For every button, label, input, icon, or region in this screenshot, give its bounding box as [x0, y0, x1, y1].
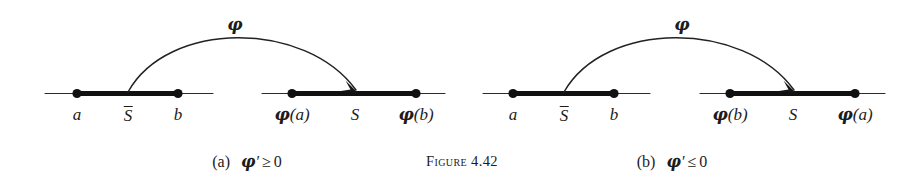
codomain-endpoint-right-dot	[411, 89, 420, 98]
domain-endpoint-b-dot	[609, 89, 618, 98]
caption-b-condition: φ′≤0	[666, 153, 707, 170]
caption-row: (a)φ′≥0 Figure 4.42 (b)φ′≤0	[0, 152, 919, 190]
domain-endpoint-b-dot	[173, 89, 182, 98]
figure-number-value: 4.42	[471, 153, 498, 169]
figure-number-label: Figure 4.42	[426, 153, 498, 170]
domain-label-b: b	[174, 106, 183, 123]
domain-endpoint-a-dot	[508, 89, 517, 98]
codomain-endpoint-right-dot	[850, 89, 859, 98]
caption-panel-b: (b)φ′≤0	[637, 152, 707, 171]
s-bar-overbar: S	[560, 106, 569, 124]
caption-a-condition: φ′≥0	[241, 153, 282, 170]
codomain-label-phi-a: φ(a)	[274, 106, 309, 123]
figure-panel-a: φ a S b φ(a) S φ(b)	[0, 0, 460, 145]
s-bar-overbar: S	[124, 106, 133, 124]
codomain-label-phi-b: φ(b)	[712, 106, 747, 123]
domain-endpoint-a-dot	[72, 89, 81, 98]
mapping-arc-label: φ	[227, 16, 242, 33]
codomain-label-phi-a: φ(a)	[837, 106, 872, 123]
codomain-label-s: S	[351, 106, 360, 123]
figure-4-42: φ a S b φ(a) S φ(b)	[0, 0, 919, 190]
figure-panel-b: φ a S b φ(b) S φ(a)	[460, 0, 919, 145]
mapping-arc	[128, 38, 356, 92]
figure-number-word: Figure	[426, 153, 467, 169]
domain-label-s-bar: S	[124, 106, 133, 124]
domain-label-s-bar: S	[560, 106, 569, 124]
mapping-arc-label: φ	[674, 16, 689, 33]
codomain-label-phi-b: φ(b)	[398, 106, 433, 123]
codomain-endpoint-left-dot	[287, 89, 296, 98]
codomain-label-s: S	[789, 106, 798, 123]
domain-label-a: a	[509, 106, 518, 123]
caption-b-tag: (b)	[637, 153, 656, 170]
domain-label-a: a	[73, 106, 82, 123]
codomain-endpoint-left-dot	[725, 89, 734, 98]
caption-panel-a: (a)φ′≥0	[212, 152, 282, 171]
mapping-arc	[564, 38, 794, 92]
domain-label-b: b	[610, 106, 619, 123]
caption-a-tag: (a)	[212, 153, 230, 170]
